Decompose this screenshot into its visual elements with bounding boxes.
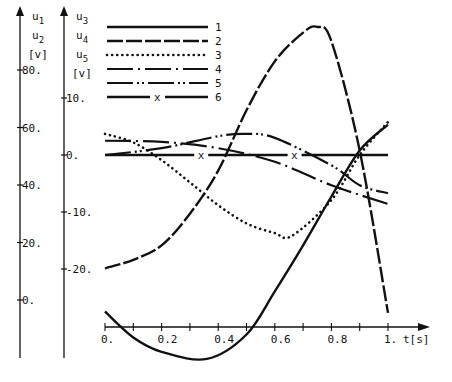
axis-label: [v] — [72, 67, 92, 80]
axes: u1u2[v]80.60.40.20.0.u3u4u5[v]10.0.-10.-… — [16, 6, 430, 358]
legend-item-4: 4 — [107, 63, 222, 76]
y-tick-label: -20. — [66, 263, 93, 276]
legend-item-6: x6 — [107, 91, 222, 104]
axis-label: u2 — [32, 29, 44, 45]
series-3-line — [105, 122, 388, 238]
x-tick-label: 0.4 — [214, 333, 234, 346]
legend-item-1: 1 — [107, 21, 222, 34]
axis-label: u4 — [76, 29, 88, 45]
y-tick-label: 0. — [22, 294, 35, 307]
x-tick-label: 1. — [384, 333, 397, 346]
legend-label: 5 — [215, 77, 222, 90]
legend-item-3: 3 — [107, 49, 222, 62]
legend-label: 3 — [215, 49, 222, 62]
legend-item-5: 5 — [107, 77, 222, 90]
x-marker-icon: x — [291, 149, 298, 162]
x-tick-label: 0. — [101, 333, 114, 346]
legend-item-2: 2 — [107, 35, 222, 48]
x-tick-label: 0.8 — [327, 333, 347, 346]
legend: 12345x6 — [107, 21, 222, 104]
curves: xx — [105, 26, 388, 359]
series-5-line — [105, 134, 388, 193]
x-tick-label: 0.6 — [271, 333, 291, 346]
y-tick-label: -10. — [66, 206, 93, 219]
y-axis-left-2: u3u4u5[v]10.0.-10.-20. — [60, 6, 93, 358]
chart: u1u2[v]80.60.40.20.0.u3u4u5[v]10.0.-10.-… — [0, 0, 452, 382]
x-axis: 0.0.20.40.60.81.t[s] — [101, 323, 430, 346]
axis-arrow-icon — [418, 323, 430, 331]
axis-label: u3 — [76, 10, 88, 26]
x-marker-icon: x — [198, 149, 205, 162]
legend-label: 6 — [215, 91, 222, 104]
x-marker-icon: x — [154, 91, 161, 104]
y-tick-label: 0. — [66, 149, 79, 162]
legend-label: 4 — [215, 63, 222, 76]
axis-label: u1 — [32, 10, 44, 26]
legend-label: 1 — [215, 21, 222, 34]
axis-label: u5 — [76, 48, 88, 64]
axis-label: [v] — [28, 48, 48, 61]
y-tick-label: 60. — [22, 122, 42, 135]
axis-arrow-icon — [60, 6, 68, 16]
y-tick-label: 20. — [22, 237, 42, 250]
y-tick-label: 10. — [66, 92, 86, 105]
x-axis-label: t[s] — [403, 333, 430, 346]
y-tick-label: 80. — [22, 64, 42, 77]
axis-arrow-icon — [16, 6, 24, 16]
x-tick-label: 0.2 — [158, 333, 178, 346]
y-axis-left-1: u1u2[v]80.60.40.20.0. — [16, 6, 48, 358]
legend-label: 2 — [215, 35, 222, 48]
y-tick-label: 40. — [22, 179, 42, 192]
